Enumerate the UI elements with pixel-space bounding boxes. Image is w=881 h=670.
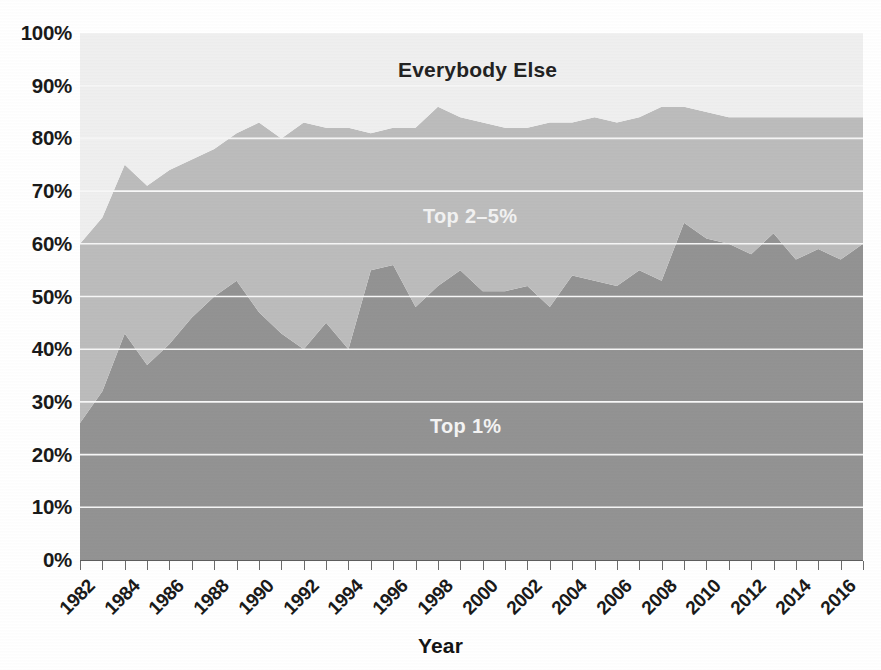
y-tick-label: 90% bbox=[32, 74, 72, 98]
stacked-area-chart: 100%90%80%70%60%50%40%30%20%10%0% 198219… bbox=[0, 0, 881, 670]
x-tick bbox=[125, 561, 126, 570]
x-tick bbox=[416, 561, 417, 570]
x-tick bbox=[259, 561, 260, 570]
x-tick bbox=[483, 561, 484, 570]
x-tick-label: 1998 bbox=[401, 575, 458, 632]
plot-svg bbox=[80, 33, 863, 560]
x-tick bbox=[595, 561, 596, 570]
series-label-top-1: Top 1% bbox=[430, 415, 501, 438]
x-tick bbox=[326, 561, 327, 570]
x-tick-label: 2012 bbox=[714, 575, 771, 632]
x-tick-label: 1990 bbox=[222, 575, 279, 632]
x-tick-label: 2000 bbox=[446, 575, 503, 632]
x-tick bbox=[527, 561, 528, 570]
y-tick-label: 100% bbox=[21, 21, 72, 45]
y-tick-label: 50% bbox=[32, 285, 72, 309]
x-tick bbox=[147, 561, 148, 570]
x-tick bbox=[841, 561, 842, 570]
x-tick bbox=[796, 561, 797, 570]
x-tick-label: 2014 bbox=[759, 575, 816, 632]
x-tick-label: 1984 bbox=[88, 575, 145, 632]
x-tick bbox=[169, 561, 170, 570]
x-tick-label: 2016 bbox=[804, 575, 861, 632]
x-tick bbox=[348, 561, 349, 570]
x-tick bbox=[818, 561, 819, 570]
plot-area bbox=[80, 33, 863, 560]
x-tick bbox=[639, 561, 640, 570]
y-axis: 100%90%80%70%60%50%40%30%20%10%0% bbox=[0, 0, 80, 595]
x-axis-title: Year bbox=[0, 634, 881, 658]
x-tick bbox=[281, 561, 282, 570]
series-label-top-2-5: Top 2–5% bbox=[423, 205, 517, 228]
x-tick-label: 1996 bbox=[356, 575, 413, 632]
x-tick bbox=[863, 561, 864, 570]
x-tick-label: 1992 bbox=[267, 575, 324, 632]
x-tick bbox=[684, 561, 685, 570]
x-tick bbox=[214, 561, 215, 570]
x-tick bbox=[438, 561, 439, 570]
x-tick-label: 2006 bbox=[580, 575, 637, 632]
x-tick bbox=[751, 561, 752, 570]
x-tick bbox=[192, 561, 193, 570]
y-tick-label: 30% bbox=[32, 390, 72, 414]
x-tick-label: 1994 bbox=[311, 575, 368, 632]
x-tick bbox=[304, 561, 305, 570]
x-tick bbox=[617, 561, 618, 570]
x-tick-label: 2010 bbox=[669, 575, 726, 632]
x-tick bbox=[662, 561, 663, 570]
y-tick-label: 0% bbox=[43, 548, 72, 572]
x-axis-line bbox=[80, 560, 863, 561]
y-tick-label: 60% bbox=[32, 232, 72, 256]
x-tick bbox=[371, 561, 372, 570]
x-tick bbox=[572, 561, 573, 570]
y-tick-label: 40% bbox=[32, 337, 72, 361]
x-tick bbox=[706, 561, 707, 570]
x-tick bbox=[774, 561, 775, 570]
x-tick bbox=[460, 561, 461, 570]
x-tick-label: 2004 bbox=[535, 575, 592, 632]
series-label-everybody-else: Everybody Else bbox=[398, 58, 557, 82]
x-tick bbox=[80, 561, 81, 570]
y-tick-label: 20% bbox=[32, 443, 72, 467]
x-tick-label: 1988 bbox=[177, 575, 234, 632]
x-tick bbox=[102, 561, 103, 570]
x-tick-label: 1986 bbox=[132, 575, 189, 632]
x-tick bbox=[393, 561, 394, 570]
x-tick-label: 2002 bbox=[490, 575, 547, 632]
x-tick-label: 2008 bbox=[625, 575, 682, 632]
x-tick bbox=[505, 561, 506, 570]
x-tick bbox=[729, 561, 730, 570]
y-tick-label: 70% bbox=[32, 179, 72, 203]
y-tick-label: 10% bbox=[32, 495, 72, 519]
x-tick bbox=[237, 561, 238, 570]
y-tick-label: 80% bbox=[32, 126, 72, 150]
x-tick bbox=[550, 561, 551, 570]
